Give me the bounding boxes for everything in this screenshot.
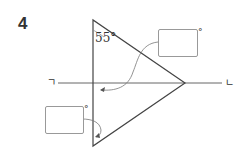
- answer-box-bottom-left[interactable]: [45, 106, 84, 134]
- answer-box-top-right[interactable]: [158, 29, 198, 57]
- degree-unit-top: °: [198, 27, 203, 37]
- line-label-left: ㄱ: [47, 74, 56, 89]
- line-label-right: ㄴ: [225, 74, 234, 89]
- arrowhead-top: [100, 87, 105, 92]
- arrowhead-bottom: [95, 133, 100, 138]
- given-angle-label: 55°: [95, 31, 116, 45]
- triangle-diagram: [0, 0, 247, 157]
- degree-unit-bottom: °: [84, 104, 89, 114]
